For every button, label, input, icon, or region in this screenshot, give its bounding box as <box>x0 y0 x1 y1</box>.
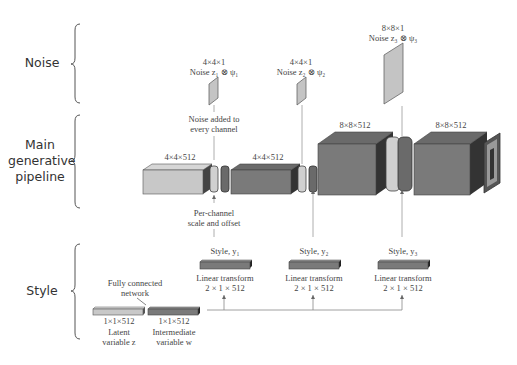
latent-label1: Latent <box>93 327 145 337</box>
style-3-transform: Linear transform <box>368 273 438 283</box>
noise-3-dims: 8×8×1 <box>363 23 423 33</box>
diagram-canvas <box>0 0 517 365</box>
intermediate-label1: Intermediate <box>146 327 202 337</box>
style-mod-slab-2 <box>309 166 317 192</box>
latent-dims: 1×1×512 <box>93 316 145 326</box>
section-label-main-1: Main <box>8 137 72 153</box>
style-1-dims: 2 × 1 × 512 <box>190 283 260 293</box>
noise-added-line1: Noise added to <box>184 114 244 124</box>
pipeline-2-dims: 4×4×512 <box>238 152 298 162</box>
intermediate-dims: 1×1×512 <box>146 316 202 326</box>
noise-3-label: Noise z₃ ⊗ ψ₃ <box>363 33 423 43</box>
noise-add-slab-1 <box>210 166 218 192</box>
per-channel-line2: scale and offset <box>180 218 248 228</box>
noise-1-label: Noise z₁ ⊗ ψ₁ <box>184 67 244 77</box>
noise-2-label: Noise z₂ ⊗ ψ₂ <box>271 67 331 77</box>
brace-icons <box>71 24 80 339</box>
pipeline-block-4 <box>414 132 487 195</box>
noise-1-dims: 4×4×1 <box>184 57 244 67</box>
style-2-label: Style, y₂ <box>284 246 344 256</box>
intermediate-label2: variable w <box>146 337 202 347</box>
pipeline-4-dims: 8×8×512 <box>421 120 481 130</box>
pipeline-block-1 <box>143 164 212 194</box>
section-label-main-2: generative <box>8 153 72 169</box>
noise-2-dims: 4×4×1 <box>271 57 331 67</box>
section-label-main-3: pipeline <box>8 169 72 185</box>
noise-brace-icon <box>71 24 80 103</box>
noise-add-slab-2 <box>298 166 306 192</box>
style-bar-1 <box>200 262 250 269</box>
style-1-label: Style, y₁ <box>195 246 255 256</box>
fc-line2: network <box>100 288 170 298</box>
latent-bar <box>93 309 143 315</box>
style-bar-3 <box>378 262 428 269</box>
style-mod-slab-1 <box>221 166 229 192</box>
pipeline-3-dims: 8×8×512 <box>325 120 385 130</box>
pipeline-block-3 <box>318 132 393 195</box>
noise-panel-2 <box>297 77 306 105</box>
style-3-dims: 2 × 1 × 512 <box>368 283 438 293</box>
style-3-label: Style, y₃ <box>373 246 433 256</box>
noise-panel-3 <box>384 43 403 104</box>
style-mod-slab-3 <box>398 137 412 191</box>
section-label-style: Style <box>12 283 72 299</box>
section-label-noise: Noise <box>12 55 72 71</box>
style-brace-icon <box>71 244 80 339</box>
style-2-transform: Linear transform <box>279 273 349 283</box>
style-bar-2 <box>289 262 339 269</box>
output-image <box>484 133 500 193</box>
noise-added-line2: every channel <box>184 124 244 134</box>
pipeline-1-dims: 4×4×512 <box>150 152 210 162</box>
per-channel-line1: Per-channel <box>180 208 248 218</box>
fc-line1: Fully connected <box>100 278 170 288</box>
latent-label2: variable z <box>93 337 145 347</box>
pipeline-block-2 <box>231 164 300 194</box>
intermediate-bar <box>148 309 198 315</box>
style-1-transform: Linear transform <box>190 273 260 283</box>
noise-panel-1 <box>209 77 218 105</box>
style-2-dims: 2 × 1 × 512 <box>279 283 349 293</box>
